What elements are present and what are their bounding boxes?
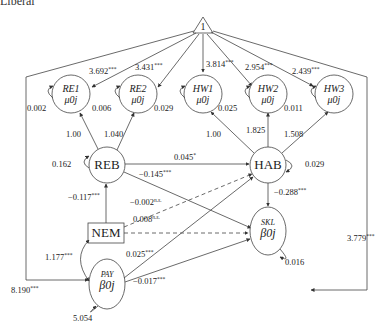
node-hw1: HW1 μ0j: [184, 84, 222, 105]
path-pay-nem-sig: ***: [64, 252, 72, 258]
intercept-hw1-sig: ***: [225, 59, 233, 65]
path-reb-hab-sig: *: [193, 152, 196, 158]
node-hw1-sub: μ0j: [184, 95, 222, 106]
node-hw1-name: HW1: [184, 84, 222, 95]
path-nem-skl-sig: n.s.: [152, 214, 160, 220]
loading-hab-hw1: 1.00: [206, 130, 221, 139]
path-hab-skl-sig: ***: [298, 187, 306, 193]
intercept-skl-sig: ***: [366, 233, 374, 239]
intercept-hw3: 2.439***: [292, 67, 319, 76]
node-re2: RE2 μ0j: [119, 84, 157, 105]
node-hw2-sub: μ0j: [249, 95, 287, 106]
node-hw3-sub: μ0j: [315, 95, 353, 106]
loading-hab-hw3: 1.508: [284, 130, 303, 139]
residual-re2: 0.006: [92, 104, 111, 113]
path-nem-reb-sig: ***: [92, 192, 100, 198]
residual-re1: 0.002: [27, 104, 46, 113]
intercept-hw1-value: 3.814: [206, 59, 225, 69]
constant-label: 1: [198, 22, 208, 33]
path-pay-nem: 1.177***: [45, 253, 72, 262]
path-pay-hab: 0.025***: [126, 250, 153, 259]
loading-reb-re2: 1.040: [104, 130, 123, 139]
node-reb: REB: [89, 158, 125, 172]
path-pay-skl-sig: ***: [157, 276, 165, 282]
node-hab: HAB: [250, 158, 286, 172]
residual-hw1: 0.029: [154, 104, 173, 113]
intercept-hw2-sig: ***: [264, 62, 272, 68]
intercept-re1: 3.692***: [89, 67, 116, 76]
path-nem-skl-value: 0.008: [133, 214, 152, 224]
intercept-pay-value: 8.190: [11, 285, 30, 295]
node-pay-sub: β0j: [89, 279, 125, 292]
intercept-pay-sig: ***: [30, 285, 38, 291]
path-pay-skl-value: −0.017: [133, 276, 157, 286]
intercept-skl: 3.779***: [347, 234, 374, 243]
path-hab-skl-value: −0.288: [274, 187, 298, 197]
node-skl: SKL β0j: [250, 219, 286, 240]
node-hw2: HW2 μ0j: [249, 84, 287, 105]
intercept-hw3-value: 2.439: [292, 66, 311, 76]
intercept-hw2-value: 2.954: [245, 62, 264, 72]
node-re1-sub: μ0j: [52, 95, 90, 106]
intercept-hw1: 3.814***: [206, 60, 233, 69]
node-re1-name: RE1: [52, 84, 90, 95]
path-nem-hab-sig: n.s.: [154, 197, 162, 203]
path-nem-skl: 0.008n.s.: [133, 215, 160, 224]
node-re2-sub: μ0j: [119, 95, 157, 106]
loading-hab-hw2: 1.825: [246, 126, 265, 135]
path-reb-hab-value: 0.045: [174, 152, 193, 162]
residual-hw3: 0.011: [284, 104, 303, 113]
residual-reb: 0.162: [52, 160, 71, 169]
node-re1: RE1 μ0j: [52, 84, 90, 105]
intercept-hw3-sig: ***: [311, 66, 319, 72]
residual-pay: 5.054: [73, 314, 92, 323]
node-nem: NEM: [88, 226, 124, 240]
path-nem-hab-value: −0.002: [130, 197, 154, 207]
path-reb-skl: −0.145***: [139, 170, 171, 179]
intercept-hw2: 2.954***: [245, 63, 272, 72]
node-hw3: HW3 μ0j: [315, 84, 353, 105]
path-pay-hab-sig: ***: [145, 249, 153, 255]
residual-hw2: 0.025: [218, 104, 237, 113]
path-nem-reb: −0.117***: [68, 193, 100, 202]
node-hw3-name: HW3: [315, 84, 353, 95]
intercept-pay: 8.190***: [11, 286, 38, 295]
residual-hab: 0.029: [305, 160, 324, 169]
intercept-re2-value: 3.431: [135, 62, 154, 72]
intercept-re2: 3.431***: [135, 63, 162, 72]
path-nem-reb-value: −0.117: [68, 192, 92, 202]
intercept-re2-sig: ***: [154, 62, 162, 68]
intercept-re1-value: 3.692: [89, 66, 108, 76]
intercept-skl-value: 3.779: [347, 233, 366, 243]
path-pay-nem-value: 1.177: [45, 252, 64, 262]
node-hw2-name: HW2: [249, 84, 287, 95]
path-reb-skl-sig: ***: [163, 169, 171, 175]
path-reb-hab: 0.045*: [174, 153, 196, 162]
node-pay: PAY β0j: [89, 271, 125, 292]
node-re2-name: RE2: [119, 84, 157, 95]
path-reb-skl-value: −0.145: [139, 169, 163, 179]
path-hab-skl: −0.288***: [274, 188, 306, 197]
loading-reb-re1: 1.00: [66, 130, 81, 139]
residual-skl: 0.016: [285, 258, 304, 267]
path-pay-skl: −0.017***: [133, 277, 165, 286]
intercept-re1-sig: ***: [108, 66, 116, 72]
path-nem-hab: −0.002n.s.: [130, 198, 162, 207]
node-skl-sub: β0j: [250, 227, 286, 240]
path-pay-hab-value: 0.025: [126, 249, 145, 259]
